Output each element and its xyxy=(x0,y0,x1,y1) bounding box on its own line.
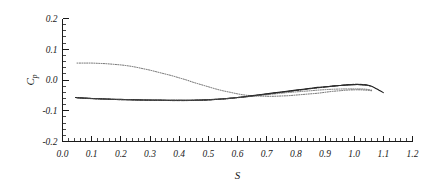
y-tick-label: -0.2 xyxy=(42,137,57,147)
x-tick-label: 0.7 xyxy=(261,149,274,159)
y-axis-title-text: Cp xyxy=(24,74,39,85)
x-tick-label: 0.4 xyxy=(173,149,185,159)
tick-labels: 0.00.10.20.30.40.50.60.70.80.91.01.11.20… xyxy=(42,14,418,159)
x-tick-label: 1.2 xyxy=(407,149,419,159)
x-tick-label: 0.5 xyxy=(202,149,214,159)
x-tick-label: 0.0 xyxy=(57,149,69,159)
y-tick-label: 0.1 xyxy=(46,45,58,55)
x-tick-label: 0.9 xyxy=(319,149,331,159)
axis-titles: SCp xyxy=(24,74,241,180)
series-line-lower-surface-cp-dotted xyxy=(77,89,372,100)
y-tick-label: 0.2 xyxy=(46,14,58,24)
x-tick-label: 0.1 xyxy=(86,149,98,159)
data-series xyxy=(76,63,384,101)
series-line-upper-surface-cp xyxy=(77,63,372,96)
x-tick-label: 0.2 xyxy=(115,149,127,159)
x-tick-label: 0.3 xyxy=(144,149,156,159)
x-tick-label: 1.0 xyxy=(348,149,360,159)
chart-figure: 0.00.10.20.30.40.50.60.70.80.91.01.11.20… xyxy=(0,0,435,188)
cp-vs-s-plot: 0.00.10.20.30.40.50.60.70.80.91.01.11.20… xyxy=(0,0,435,188)
y-tick-label: -0.1 xyxy=(42,106,57,116)
y-axis-title: Cp xyxy=(24,74,39,85)
axes xyxy=(63,19,413,142)
tick-marks xyxy=(63,19,413,142)
x-tick-label: 0.8 xyxy=(290,149,302,159)
x-axis-title: S xyxy=(235,169,241,181)
x-tick-label: 0.6 xyxy=(232,149,244,159)
y-tick-label: 0.0 xyxy=(46,75,58,85)
x-tick-label: 1.1 xyxy=(377,149,389,159)
